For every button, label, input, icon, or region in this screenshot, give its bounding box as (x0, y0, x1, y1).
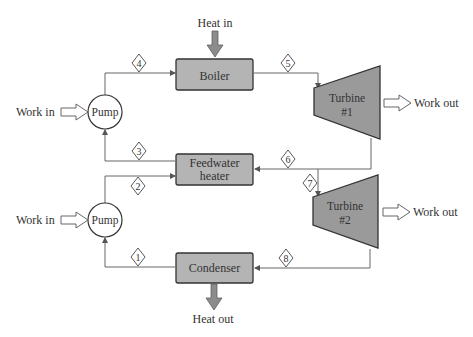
work-out-1-label: Work out (414, 96, 459, 110)
turbine-1-label-2: #1 (341, 106, 353, 118)
pump-low-label: Pump (92, 214, 119, 227)
turbine-2: Turbine #2 (313, 175, 378, 248)
line-state-6 (255, 138, 371, 169)
turbine-1-label-1: Turbine (329, 92, 365, 104)
state-6-label: 6 (286, 154, 291, 165)
line-state-5 (254, 73, 318, 88)
line-state-8 (255, 249, 370, 268)
heat-in-label: Heat in (198, 16, 233, 30)
line-state-4 (105, 73, 175, 95)
work-in-low-arrow-icon (61, 212, 88, 228)
state-7-label: 7 (308, 178, 313, 189)
boiler-label: Boiler (200, 69, 230, 83)
work-in-low-label: Work in (16, 213, 55, 227)
state-1-label: 1 (136, 252, 141, 263)
pump-high: Pump (88, 95, 122, 129)
work-in-high-arrow-icon (61, 104, 88, 120)
heat-in-arrow-icon (207, 31, 223, 57)
turbine-2-label-1: Turbine (327, 200, 363, 212)
turbine-1: Turbine #1 (314, 66, 380, 139)
feedwater-heater-label-2: heater (200, 169, 229, 183)
work-out-1-arrow-icon (384, 95, 411, 111)
boiler: Boiler (176, 59, 253, 90)
rankine-cycle-diagram: Boiler Feedwater heater Condenser Pump P… (0, 0, 473, 337)
state-8-label: 8 (284, 253, 289, 264)
state-2-label: 2 (136, 181, 141, 192)
work-out-2-arrow-icon (383, 204, 410, 220)
heat-out-label: Heat out (193, 312, 235, 326)
pump-high-label: Pump (92, 106, 119, 119)
state-3-label: 3 (137, 146, 142, 157)
condenser-label: Condenser (189, 261, 240, 275)
heat-out-arrow-icon (206, 284, 222, 310)
feedwater-heater-label-1: Feedwater (190, 156, 240, 170)
work-in-high-label: Work in (16, 105, 55, 119)
state-5-label: 5 (286, 58, 291, 69)
pump-low: Pump (88, 203, 122, 237)
state-4-label: 4 (137, 58, 142, 69)
work-out-2-label: Work out (413, 205, 458, 219)
feedwater-heater: Feedwater heater (176, 154, 253, 185)
condenser: Condenser (176, 253, 253, 283)
turbine-2-label-2: #2 (339, 214, 351, 226)
